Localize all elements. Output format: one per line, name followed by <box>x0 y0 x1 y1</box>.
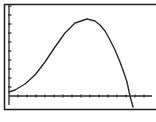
function-curve <box>9 19 133 107</box>
graph-canvas <box>0 0 156 122</box>
calculator-graph-screen <box>0 0 156 122</box>
screen-frame <box>4 4 156 110</box>
